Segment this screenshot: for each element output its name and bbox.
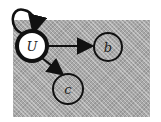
node-U[interactable]: U <box>17 31 47 61</box>
node-label: b <box>104 40 112 55</box>
node-c[interactable]: c <box>53 74 83 104</box>
node-label: c <box>64 82 72 97</box>
node-label: U <box>27 39 39 54</box>
edge-U-c <box>42 58 61 73</box>
graph-diagram: U b c <box>0 0 161 122</box>
node-b[interactable]: b <box>94 33 122 61</box>
